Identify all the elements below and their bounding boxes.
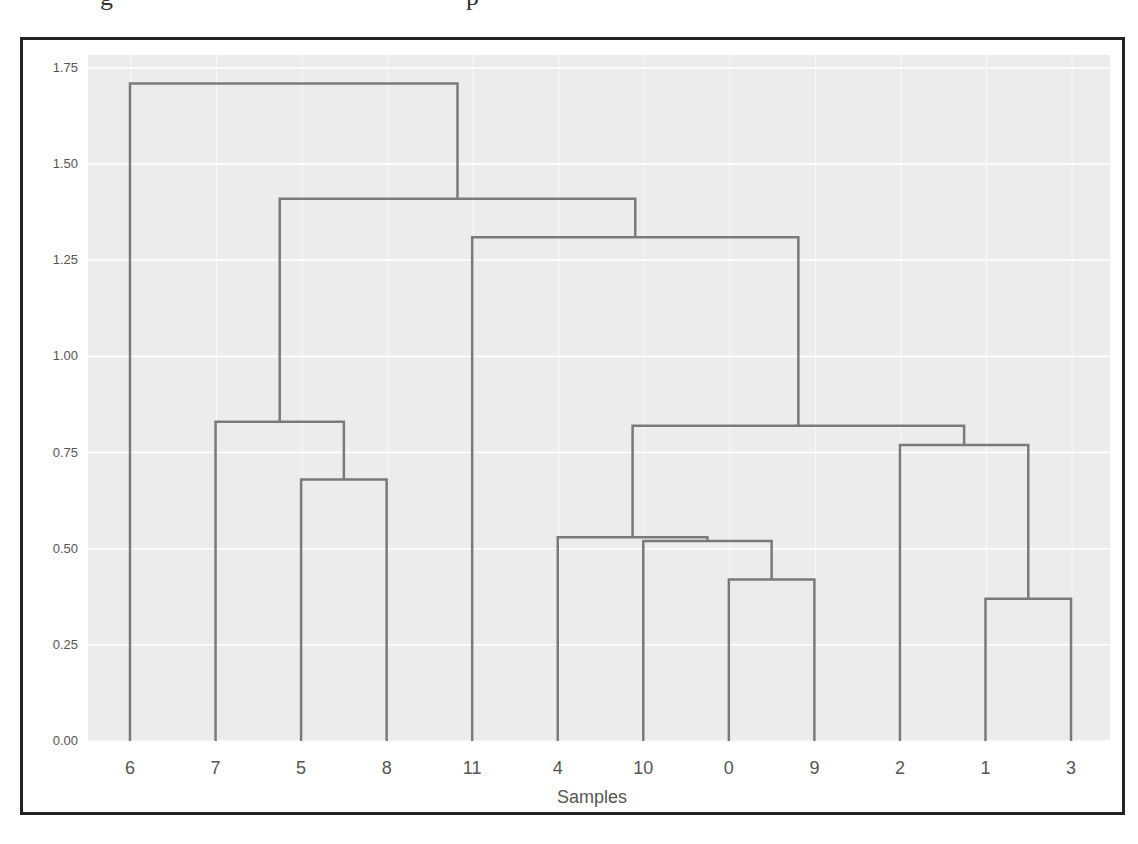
x-tick-label: 10 [633,758,653,778]
y-tick-label: 1.50 [53,156,78,171]
y-tick-label: 0.00 [53,733,78,748]
x-tick-label: 9 [809,758,819,778]
x-tick-label: 7 [211,758,221,778]
x-tick-label: 11 [463,758,482,778]
x-tick-label: 8 [382,758,392,778]
plot-area [88,55,1110,742]
x-tick-label: 1 [980,758,990,778]
x-tick-label: 0 [724,758,734,778]
y-axis-ticks: 0.000.250.500.751.001.251.501.75 [53,60,78,748]
y-tick-label: 1.00 [53,348,78,363]
y-tick-label: 0.75 [53,445,78,460]
x-tick-label: 5 [296,758,306,778]
x-tick-label: 6 [125,758,135,778]
y-tick-label: 1.75 [53,60,78,75]
y-tick-label: 0.50 [53,541,78,556]
y-tick-label: 1.25 [53,252,78,267]
x-axis-label: Samples [557,787,627,807]
y-tick-label: 0.25 [53,637,78,652]
x-tick-label: 2 [895,758,905,778]
dendrogram-chart: 0.000.250.500.751.001.251.501.75 6758114… [0,0,1138,844]
x-tick-label: 3 [1066,758,1076,778]
x-tick-label: 4 [553,758,563,778]
x-axis-ticks: 67581141009213 [125,758,1076,778]
